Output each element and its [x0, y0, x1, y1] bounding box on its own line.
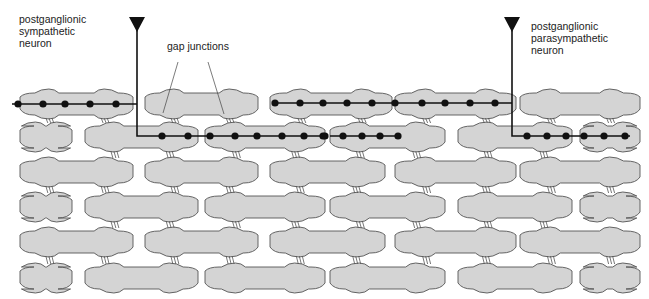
- varicosity: [391, 99, 398, 106]
- varicosity: [319, 132, 326, 139]
- muscle-cell: [85, 263, 198, 293]
- muscle-cell: [458, 263, 572, 293]
- muscle-cell: [145, 227, 258, 257]
- muscle-cell: [395, 157, 516, 187]
- varicosity: [621, 132, 628, 139]
- sympathetic-neuron-label: postganglionic sympathetic neuron: [19, 13, 86, 49]
- smooth-muscle-cells: [20, 89, 640, 293]
- varicosity: [296, 99, 303, 106]
- varicosity: [300, 132, 307, 139]
- muscle-cell: [145, 157, 258, 187]
- neuron-terminal-icon: [504, 17, 520, 32]
- varicosity: [491, 99, 498, 106]
- varicosity: [543, 132, 550, 139]
- muscle-cell: [458, 122, 572, 152]
- muscle-cell: [270, 157, 385, 187]
- muscle-cell: [520, 89, 640, 119]
- muscle-cell: [20, 192, 72, 222]
- varicosity: [441, 99, 448, 106]
- varicosity: [343, 99, 350, 106]
- muscle-cell: [20, 227, 133, 257]
- varicosity: [562, 132, 569, 139]
- varicosity: [376, 132, 383, 139]
- varicosity: [339, 132, 346, 139]
- muscle-cell: [520, 227, 640, 257]
- muscle-cell: [330, 263, 445, 293]
- muscle-cell: [20, 263, 72, 293]
- muscle-cell: [580, 263, 640, 293]
- varicosity: [14, 100, 21, 107]
- varicosity: [61, 100, 68, 107]
- varicosity: [206, 132, 213, 139]
- muscle-cell: [330, 122, 445, 152]
- varicosity: [368, 99, 375, 106]
- varicosity: [394, 132, 401, 139]
- muscle-cell: [85, 122, 198, 152]
- muscle-cell: [458, 192, 572, 222]
- varicosity: [358, 132, 365, 139]
- muscle-cell: [580, 122, 640, 152]
- muscle-cell: [520, 157, 640, 187]
- muscle-cell: [330, 192, 445, 222]
- varicosity: [278, 132, 285, 139]
- muscle-cell: [20, 122, 72, 152]
- varicosity: [600, 132, 607, 139]
- muscle-cell: [145, 89, 258, 119]
- muscle-cell: [20, 157, 133, 187]
- gap-junctions-label: gap junctions: [167, 40, 229, 52]
- varicosity: [466, 99, 473, 106]
- muscle-cell: [205, 263, 325, 293]
- varicosity: [86, 100, 93, 107]
- varicosity: [39, 100, 46, 107]
- muscle-cell: [395, 227, 516, 257]
- muscle-cell: [85, 192, 198, 222]
- parasympathetic-neuron-label: postganglionic parasympathetic neuron: [531, 20, 608, 56]
- varicosity: [112, 100, 119, 107]
- varicosity: [418, 99, 425, 106]
- varicosity: [319, 99, 326, 106]
- varicosity: [523, 132, 530, 139]
- varicosity: [253, 132, 260, 139]
- muscle-cell: [270, 227, 385, 257]
- neuron-terminal-icon: [129, 17, 145, 32]
- varicosity: [271, 99, 278, 106]
- varicosity: [158, 132, 165, 139]
- muscle-cell: [205, 192, 325, 222]
- varicosity: [231, 132, 238, 139]
- varicosity: [580, 132, 587, 139]
- muscle-cell: [580, 192, 640, 222]
- varicosity: [184, 132, 191, 139]
